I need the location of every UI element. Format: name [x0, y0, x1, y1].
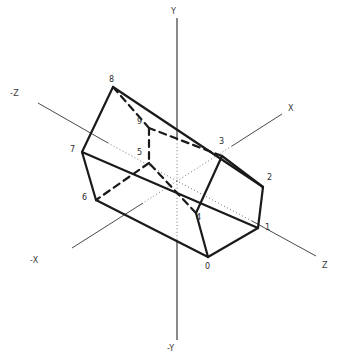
object-edge-v3-v9 [149, 128, 222, 156]
object-edge-v3-v4 [196, 156, 222, 213]
axis-label-y-neg: -Y [167, 344, 174, 353]
axis-line-x-positive [232, 114, 282, 146]
axis-line-z-positive [252, 221, 316, 256]
axis-line-x-negative [72, 203, 143, 248]
vertex-label-0: 0 [205, 262, 210, 271]
axis-label-y-pos: Y [171, 7, 176, 16]
axis-line-x-occluded [177, 146, 232, 181]
axis-lines-group [38, 18, 316, 340]
axis-line-z-occluded [177, 181, 252, 221]
wireframe-svg [0, 0, 345, 362]
axis-label-x-neg: -X [30, 256, 39, 265]
vertex-label-8: 8 [109, 75, 114, 84]
vertex-label-3: 3 [219, 137, 224, 146]
object-edge-v1-v2 [258, 187, 263, 228]
vertex-label-7: 7 [70, 145, 75, 154]
vertex-label-6: 6 [82, 193, 87, 202]
vertex-label-4: 4 [196, 213, 201, 222]
axis-line-negz-occluded [108, 143, 177, 181]
axis-label-z-neg: -Z [10, 89, 19, 98]
object-edge-v4-v5 [149, 163, 196, 213]
object-edges-group [82, 87, 263, 257]
object-edge-v7-v8 [82, 87, 113, 152]
vertex-label-9: 9 [137, 117, 142, 126]
vertex-label-2: 2 [267, 173, 272, 182]
axis-label-z-pos: Z [322, 261, 328, 270]
axis-label-x-pos: X [288, 104, 294, 113]
axis-line-z-negative [38, 103, 108, 143]
vertex-label-1: 1 [265, 223, 270, 232]
diagram-canvas: Y-YX-XZ-Z 0123456789 [0, 0, 345, 362]
vertex-label-5: 5 [137, 148, 142, 157]
object-edge-v0-v1 [208, 228, 258, 257]
